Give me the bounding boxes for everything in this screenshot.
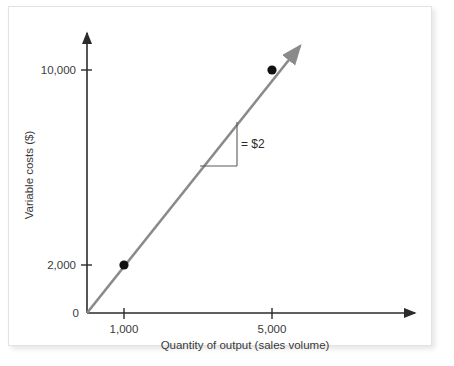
data-point-5000-10000	[267, 65, 276, 74]
slope-annotation-label: = $2	[241, 137, 265, 151]
figure-root: 10,000 2,000 0 1,000 5,000 Quantity of o…	[0, 0, 454, 366]
y-tick-label-2000: 2,000	[47, 259, 76, 271]
x-tick-label-1000: 1,000	[110, 323, 139, 335]
x-tick-label-5000: 5,000	[258, 323, 287, 335]
y-tick-label-10000: 10,000	[41, 64, 76, 76]
variable-cost-line	[87, 46, 300, 313]
origin-label-zero: 0	[73, 307, 79, 319]
data-point-1000-2000	[119, 260, 128, 269]
y-axis-title: Variable costs ($)	[23, 131, 35, 220]
slope-triangle	[200, 122, 237, 166]
variable-cost-chart: 10,000 2,000 0 1,000 5,000 Quantity of o…	[0, 0, 454, 366]
x-axis-title: Quantity of output (sales volume)	[161, 339, 330, 351]
data-points-group	[119, 65, 276, 269]
axes-group	[87, 33, 415, 313]
